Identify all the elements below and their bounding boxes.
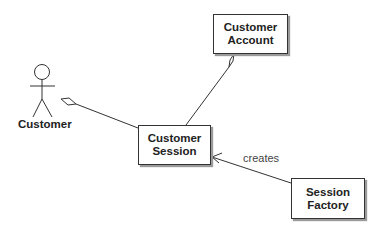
relationship-label-creates: creates [243, 152, 279, 164]
actor-label: Customer [18, 118, 72, 130]
class-name-line1: Customer [224, 21, 278, 34]
class-name-line2: Session [148, 145, 202, 158]
open-arrowhead-icon [212, 153, 222, 163]
diagram-canvas: Customer Account Customer Session Sessio… [0, 0, 387, 229]
class-name-line1: Customer [148, 132, 202, 145]
class-name-line1: Session [306, 186, 350, 199]
class-customer-session[interactable]: Customer Session [138, 125, 211, 165]
actor-icon [30, 65, 55, 118]
class-customer-account[interactable]: Customer Account [213, 14, 288, 54]
aggregation-session-actor [61, 98, 138, 128]
aggregation-session-account [186, 54, 234, 125]
aggregation-diamond-icon [61, 98, 76, 105]
class-session-factory[interactable]: Session Factory [291, 178, 365, 219]
class-name-line2: Factory [306, 199, 350, 212]
aggregation-diamond-icon [229, 54, 234, 67]
class-name-line2: Account [224, 34, 278, 47]
